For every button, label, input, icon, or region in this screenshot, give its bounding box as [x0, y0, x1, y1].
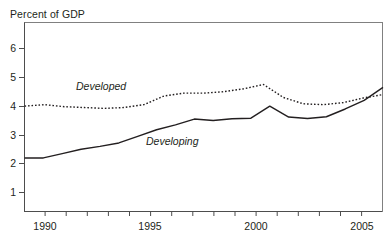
series-line-developing [25, 87, 384, 158]
x-tick-label-2000: 2000 [236, 220, 276, 232]
y-tick-label-6: 6 [2, 42, 16, 54]
y-tick-label-1: 1 [2, 186, 16, 198]
x-tick-label-2005: 2005 [342, 220, 382, 232]
y-tick-label-5: 5 [2, 71, 16, 83]
x-axis-ticks [45, 212, 362, 217]
x-tick-label-1995: 1995 [130, 220, 170, 232]
y-tick-label-3: 3 [2, 129, 16, 141]
series-label-developed: Developed [76, 80, 126, 92]
y-axis-ticks [19, 49, 25, 193]
series-label-developing: Developing [146, 135, 199, 147]
plot-area [0, 0, 388, 244]
x-tick-label-1990: 1990 [25, 220, 65, 232]
chart-figure: Percent of GDP [0, 0, 388, 244]
y-tick-label-2: 2 [2, 157, 16, 169]
y-tick-label-4: 4 [2, 100, 16, 112]
